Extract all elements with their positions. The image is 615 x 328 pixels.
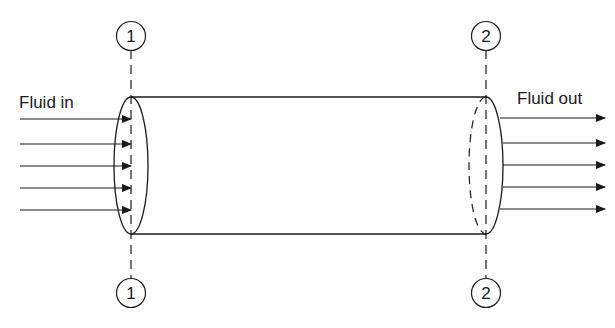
outlet-arrows [500, 118, 605, 209]
section-1-top-label: 1 [126, 27, 135, 46]
fluid-tube-diagram: 1 1 2 2 Fluid in Fluid out [0, 0, 615, 328]
outlet-cross-section-hidden [469, 97, 486, 234]
section-2-top-label: 2 [481, 27, 490, 46]
section-1-bottom-label: 1 [126, 284, 135, 303]
fluid-out-label: Fluid out [517, 89, 582, 108]
section-2-bottom-label: 2 [481, 284, 490, 303]
fluid-in-label: Fluid in [19, 93, 74, 112]
